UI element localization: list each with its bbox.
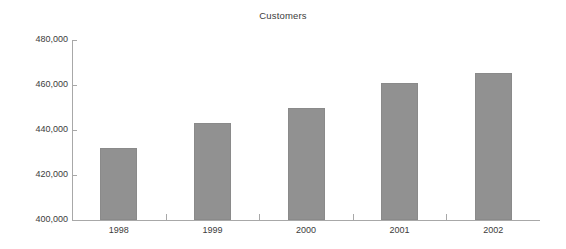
chart-title: Customers xyxy=(0,10,566,21)
x-axis-line xyxy=(72,220,540,221)
y-axis-tick-label-wrap: 480,000 xyxy=(0,34,68,46)
x-axis-tick xyxy=(166,214,167,220)
x-axis-category-label: 1998 xyxy=(84,225,154,235)
bar xyxy=(381,83,418,220)
x-axis-tick xyxy=(446,214,447,220)
x-axis-tick xyxy=(259,214,260,220)
y-axis-tick-label-wrap: 400,000 xyxy=(0,214,68,226)
x-axis-category-label: 2001 xyxy=(365,225,435,235)
y-axis-tick-label: 440,000 xyxy=(6,124,68,134)
y-axis-tick-label-wrap: 460,000 xyxy=(0,79,68,91)
x-axis-category-label: 1999 xyxy=(177,225,247,235)
y-axis-tick-label: 460,000 xyxy=(6,79,68,89)
y-axis-tick xyxy=(72,40,77,41)
bar xyxy=(194,123,231,220)
bar xyxy=(288,108,325,221)
y-axis-tick-label: 420,000 xyxy=(6,169,68,179)
y-axis-tick-label: 400,000 xyxy=(6,214,68,224)
bar xyxy=(475,73,512,220)
x-axis-category-label: 2000 xyxy=(271,225,341,235)
y-axis-tick xyxy=(72,130,77,131)
y-axis-tick xyxy=(72,220,77,221)
y-axis-tick-label-wrap: 440,000 xyxy=(0,124,68,136)
y-axis-tick-label: 480,000 xyxy=(6,34,68,44)
y-axis-tick-label-wrap: 420,000 xyxy=(0,169,68,181)
y-axis-tick xyxy=(72,85,77,86)
bar-chart: Customers 480,000460,000440,000420,00040… xyxy=(0,0,566,249)
bar xyxy=(100,148,137,220)
x-axis-tick xyxy=(353,214,354,220)
x-axis-category-label: 2002 xyxy=(458,225,528,235)
y-axis-tick xyxy=(72,175,77,176)
